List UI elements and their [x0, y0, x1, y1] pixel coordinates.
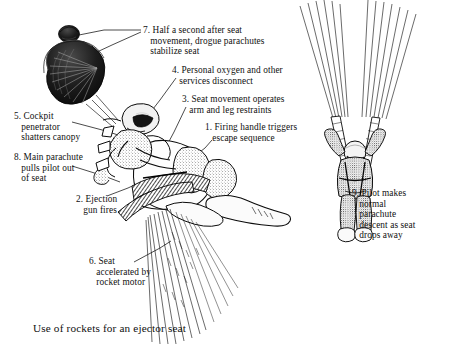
callout-8: 8. Main parachute pulls pilot out of sea… — [14, 152, 83, 184]
callout-3-text: 3. Seat movement operates arm and leg re… — [182, 94, 285, 115]
callout-7: 7. Half a second after seat movement, dr… — [143, 25, 265, 57]
callout-2-text: 2. Ejection gun fires — [76, 194, 117, 215]
callout-6: 6. Seat accelerated by rocket motor — [89, 256, 151, 288]
callout-7-text: 7. Half a second after seat movement, dr… — [143, 25, 265, 56]
callout-1: 1. Firing handle triggers escape sequenc… — [205, 122, 297, 143]
callout-1-text: 1. Firing handle triggers escape sequenc… — [205, 122, 297, 143]
callout-4: 4. Personal oxygen and other services di… — [172, 65, 283, 86]
callout-9-text: 9. Pilot makes normal parachute descent … — [352, 188, 415, 240]
callout-8-text: 8. Main parachute pulls pilot out of sea… — [14, 152, 83, 183]
callout-5: 5. Cockpit penetrator shatters canopy — [14, 111, 80, 143]
callout-9: 9. Pilot makes normal parachute descent … — [352, 188, 415, 241]
callout-2: 2. Ejection gun fires — [76, 194, 117, 215]
callout-3: 3. Seat movement operates arm and leg re… — [182, 94, 285, 115]
figure-caption: Use of rockets for an ejector seat — [33, 322, 186, 334]
callout-4-text: 4. Personal oxygen and other services di… — [172, 65, 283, 86]
callout-6-text: 6. Seat accelerated by rocket motor — [89, 256, 151, 287]
callout-5-text: 5. Cockpit penetrator shatters canopy — [14, 111, 80, 142]
